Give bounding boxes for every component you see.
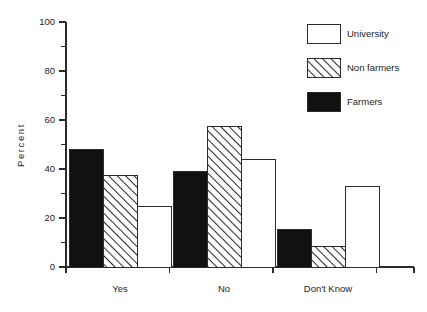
y-tick-label: 80 xyxy=(44,65,55,76)
bar-non-farmers-no xyxy=(207,126,241,267)
y-tick-label: 100 xyxy=(39,16,55,27)
bar-university-yes xyxy=(137,207,171,267)
bar-non-farmers-yes xyxy=(103,175,137,267)
chart-svg: 020406080100 YesNoDon't Know UniversityN… xyxy=(0,0,427,312)
y-tick-label: 20 xyxy=(44,212,55,223)
legend-label-university: University xyxy=(347,28,389,39)
y-axis-title: Percent xyxy=(15,123,26,167)
y-tick-label: 60 xyxy=(44,114,55,125)
y-tick-label: 0 xyxy=(50,261,55,272)
x-category-label: No xyxy=(218,283,230,294)
legend-swatch-university xyxy=(307,24,340,43)
bar-non-farmers-don-t-know xyxy=(311,246,345,267)
bar-university-no xyxy=(241,159,275,267)
bar-university-don-t-know xyxy=(345,186,379,267)
y-tick-label: 40 xyxy=(44,163,55,174)
legend-swatch-non-farmers xyxy=(307,58,340,77)
legend-label-farmers: Farmers xyxy=(347,96,383,107)
bar-farmers-no xyxy=(173,171,207,267)
legend-swatch-farmers xyxy=(307,92,340,111)
bar-chart: 020406080100 YesNoDon't Know UniversityN… xyxy=(0,0,427,312)
legend-label-non-farmers: Non farmers xyxy=(347,62,400,73)
x-category-label: Don't Know xyxy=(304,283,352,294)
x-category-label: Yes xyxy=(112,283,128,294)
bar-farmers-yes xyxy=(69,149,103,267)
bar-farmers-don-t-know xyxy=(277,229,311,267)
